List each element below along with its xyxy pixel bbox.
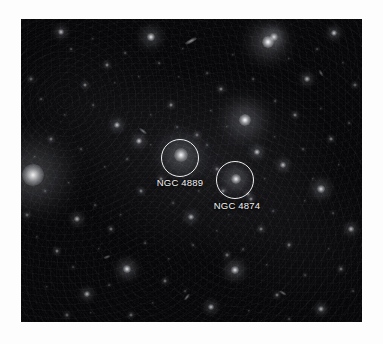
star-point [129,313,133,317]
star-point [304,200,306,202]
edge-on-galaxy [139,127,148,135]
annotation-label-ngc-4874: NGC 4874 [214,200,260,211]
star-point [138,76,140,78]
star-point [147,33,155,41]
star-point [114,82,116,84]
star-point [83,83,87,87]
star-point [219,87,223,91]
star-point [206,144,209,147]
star-point [84,291,90,297]
star-point [304,76,310,82]
star-point [92,38,94,40]
star-point [114,122,120,128]
star-point [348,226,354,232]
star-point [339,267,343,271]
edge-on-galaxy [318,69,324,77]
edge-on-galaxy [184,36,197,46]
star-point [188,214,194,220]
star-point [44,190,47,193]
star-point [152,302,154,304]
star-point [168,258,170,260]
star-point [120,214,122,216]
edge-on-galaxy [279,290,287,297]
star-point [22,164,44,186]
star-point [98,248,100,250]
star-point [36,236,38,238]
star-point [352,290,355,293]
star-point [90,312,92,314]
star-point [163,279,167,283]
star-point [64,114,66,116]
star-point [55,249,59,253]
star-point [338,164,340,166]
star-point [94,204,97,207]
star-point [25,213,29,217]
star-point [139,189,143,193]
star-point [216,230,218,232]
star-point [150,144,152,146]
star-point [182,48,184,50]
star-point [92,104,95,107]
annotation-circle-ngc-4889 [161,139,199,177]
star-point [293,113,297,117]
star-point [206,72,209,75]
star-point [287,243,291,247]
star-point [331,30,337,36]
star-point [226,126,228,128]
star-point [272,210,275,213]
star-point [231,266,239,274]
star-point [239,114,251,126]
star-point [126,158,129,161]
star-point [304,274,307,277]
star-point [328,248,330,250]
star-point [144,242,147,245]
star-point [342,62,344,64]
star-point [40,98,43,101]
star-point [195,133,199,137]
star-point [288,58,290,60]
star-point [318,306,324,312]
annotation-label-ngc-4889: NGC 4889 [157,177,203,188]
star-point [210,110,212,112]
star-point [274,136,276,138]
star-point [109,227,113,231]
edge-on-galaxy [103,254,111,259]
star-point [262,36,274,48]
star-point [353,83,357,87]
star-point [320,108,322,110]
star-point [242,248,245,251]
star-point [317,185,325,193]
star-point [302,148,305,151]
star-point [332,212,335,215]
star-point [275,293,279,297]
star-point [316,48,319,51]
astronomical-image: NGC 4889NGC 4874 [21,19,362,322]
star-point [104,166,106,168]
star-point [46,286,48,288]
star-point [176,126,179,129]
star-point [158,62,161,65]
star-point [105,63,109,67]
star-point [150,114,152,116]
star-point [108,284,111,287]
star-point [270,33,278,41]
star-point [288,318,291,321]
figure-page: NGC 4889NGC 4874 [0,0,383,344]
star-point [136,138,142,144]
star-point [70,48,73,51]
star-point [169,103,173,107]
star-point [65,313,69,317]
star-point [248,310,250,312]
star-point [58,29,64,35]
star-point [192,244,195,247]
star-point [254,149,260,155]
annotation-circle-ngc-4874 [216,161,254,199]
star-point [228,214,230,216]
star-point [252,78,255,81]
star-point [178,76,180,78]
star-point [280,162,286,168]
star-point [225,253,229,257]
star-point [232,54,234,56]
star-point [348,122,351,125]
star-point [208,304,214,310]
